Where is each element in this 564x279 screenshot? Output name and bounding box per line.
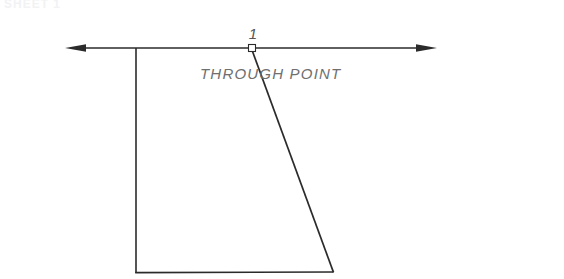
left-arrowhead-icon	[65, 44, 86, 52]
point-index-label: 1	[249, 25, 257, 42]
through-point-marker-icon[interactable]	[249, 45, 256, 52]
clipped-header-text: SHEET 1	[4, 0, 61, 11]
diagram-canvas: SHEET 1 1 THROUGH POINT	[0, 0, 564, 279]
bottom-edge	[135, 272, 333, 273]
slanted-right-edge	[252, 50, 334, 272]
through-point-diagram: SHEET 1 1 THROUGH POINT	[0, 0, 564, 279]
right-arrowhead-icon	[416, 44, 437, 52]
through-point-label: THROUGH POINT	[200, 65, 342, 82]
